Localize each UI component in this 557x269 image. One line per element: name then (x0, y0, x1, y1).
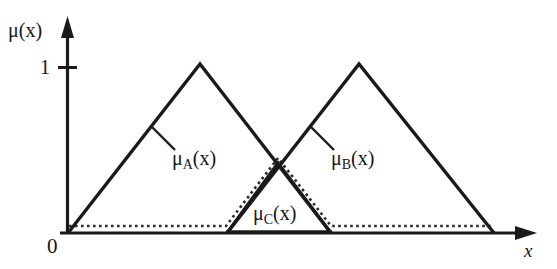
x-axis-label: x (524, 241, 532, 260)
x-axis-arrowhead (515, 226, 537, 240)
mu-b-subscript: B (342, 157, 351, 172)
mu-c-argument: (x) (273, 202, 296, 224)
membership-function-plot (0, 0, 557, 269)
y-axis-arrowhead (61, 16, 74, 38)
mu-a-glyph: μ (172, 147, 183, 169)
y-axis-label: μ(x) (8, 20, 42, 40)
curve-label-mu-c: μC(x) (253, 203, 296, 227)
curve-label-mu-a: μA(x) (172, 148, 216, 172)
y-tick-label-1: 1 (40, 57, 50, 77)
mu-b-argument: (x) (351, 147, 374, 169)
mu-c-glyph: μ (253, 202, 264, 224)
mu-a-argument: (x) (193, 147, 216, 169)
mu-a-subscript: A (183, 157, 193, 172)
mu-c-subscript: C (264, 212, 273, 227)
curve-label-mu-b: μB(x) (331, 148, 374, 172)
fuzzy-membership-figure: μ(x) 1 0 x μA(x) μB(x) μC(x) (0, 0, 557, 269)
axis-group (58, 16, 537, 240)
origin-label: 0 (47, 236, 58, 257)
mu-b-glyph: μ (331, 147, 342, 169)
